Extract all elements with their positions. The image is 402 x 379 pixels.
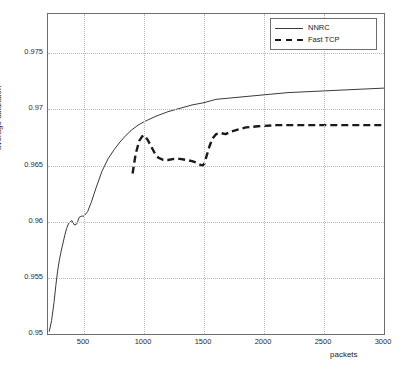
gridline-vertical xyxy=(144,14,145,334)
y-tick-label: 0.97 xyxy=(1,104,43,112)
legend-label-nnrc: NNRC xyxy=(308,23,330,33)
gridline-horizontal xyxy=(48,278,384,279)
x-tick-label: 500 xyxy=(63,338,103,346)
y-tick-label: 0.96 xyxy=(1,217,43,225)
x-axis-label: packets xyxy=(330,350,358,359)
series-layer xyxy=(48,14,384,334)
x-tick-label: 2000 xyxy=(243,338,283,346)
y-tick-label: 0.955 xyxy=(1,273,43,281)
y-tick-label: 0.965 xyxy=(1,161,43,169)
legend-swatch-dashed-icon xyxy=(275,35,303,45)
x-tick-label: 1000 xyxy=(123,338,163,346)
gridline-vertical xyxy=(324,14,325,334)
legend-item-fast-tcp: Fast TCP xyxy=(275,34,372,46)
x-tick-label: 3000 xyxy=(363,338,402,346)
gridline-horizontal xyxy=(48,334,384,335)
gridline-horizontal xyxy=(48,53,384,54)
legend-label-fast-tcp: Fast TCP xyxy=(308,35,340,45)
legend-swatch-solid-icon xyxy=(275,23,303,33)
gridline-horizontal xyxy=(48,222,384,223)
x-tick-label: 2500 xyxy=(303,338,343,346)
gridline-vertical xyxy=(84,14,85,334)
gridline-horizontal xyxy=(48,109,384,110)
y-tick-label: 0.975 xyxy=(1,48,43,56)
chart-figure: 0.950.9550.960.9650.970.975 500100015002… xyxy=(0,0,402,379)
plot-area xyxy=(47,13,385,335)
legend-item-nnrc: NNRC xyxy=(275,22,372,34)
gridline-horizontal xyxy=(48,166,384,167)
y-axis-label: average utilization xyxy=(0,86,3,150)
y-tick-label: 0.95 xyxy=(1,329,43,337)
gridline-vertical xyxy=(384,14,385,334)
chart-legend: NNRC Fast TCP xyxy=(270,18,377,50)
x-tick-label: 1500 xyxy=(183,338,223,346)
gridline-vertical xyxy=(264,14,265,334)
gridline-vertical xyxy=(204,14,205,334)
